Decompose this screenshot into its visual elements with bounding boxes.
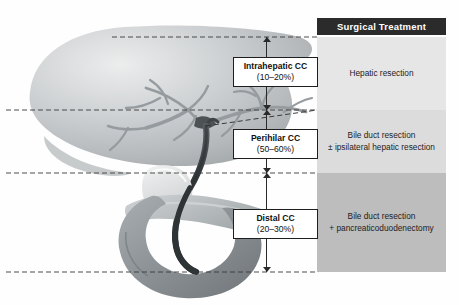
treatment-panel-header: Surgical Treatment <box>317 18 446 35</box>
arrowhead-up-2 <box>263 110 271 115</box>
treatment-band-hepatic-resection[interactable]: Hepatic resection <box>317 37 446 110</box>
label-title-perihilar: Perihilar CC <box>251 133 300 144</box>
arrowhead-up-1 <box>263 37 271 42</box>
label-percent-perihilar: (50–60%) <box>257 144 294 155</box>
treatment-band-3-line-1: Bile duct resection <box>329 211 433 223</box>
treatment-band-bile-duct-whipple[interactable]: Bile duct resection + pancreaticoduodene… <box>317 173 446 272</box>
label-percent-distal: (20–30%) <box>257 224 294 235</box>
label-title-intrahepatic: Intrahepatic CC <box>244 61 308 72</box>
treatment-band-2-line-2: ± ipsilateral hepatic resection <box>328 142 435 154</box>
treatment-band-bile-duct-ipsilateral[interactable]: Bile duct resection ± ipsilateral hepati… <box>317 110 446 173</box>
label-title-distal: Distal CC <box>256 213 294 224</box>
arrowhead-down-3 <box>263 267 271 272</box>
treatment-band-3-line-2: + pancreaticoduodenectomy <box>329 223 433 235</box>
label-box-perihilar[interactable]: Perihilar CC (50–60%) <box>233 129 318 159</box>
label-box-intrahepatic[interactable]: Intrahepatic CC (10–20%) <box>233 57 318 87</box>
treatment-band-2-line-1: Bile duct resection <box>328 130 435 142</box>
label-box-distal[interactable]: Distal CC (20–30%) <box>233 209 318 239</box>
figure-canvas: Intrahepatic CC (10–20%) Perihilar CC (5… <box>0 0 459 305</box>
treatment-band-1-line-1: Hepatic resection <box>349 68 413 80</box>
treatment-panel-title: Surgical Treatment <box>337 21 426 32</box>
arrowhead-up-3 <box>263 173 271 178</box>
label-percent-intrahepatic: (10–20%) <box>257 72 294 83</box>
